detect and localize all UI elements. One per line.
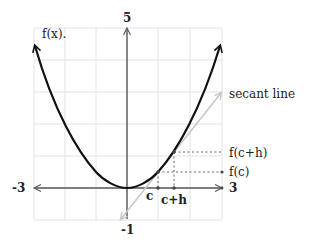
- grid: [34, 28, 222, 220]
- secant-line: [121, 195, 140, 219]
- function-label: f(x).: [42, 27, 66, 41]
- fc-end-dot: [220, 170, 223, 173]
- point-fc: [156, 170, 160, 174]
- point-ch: [172, 186, 176, 190]
- point-fch: [172, 150, 176, 154]
- c-label: c: [146, 189, 153, 203]
- ch-label: c+h: [161, 193, 187, 207]
- y-min-label: -1: [121, 223, 134, 237]
- function-curve-left: [35, 46, 127, 188]
- x-min-label: -3: [12, 181, 25, 195]
- point-c: [156, 186, 160, 190]
- secant-line-diagram: f(x). secant line f(c+h) f(c) 3 -3 5 -1 …: [0, 0, 311, 247]
- fch-label: f(c+h): [229, 146, 267, 160]
- x-max-label: 3: [229, 181, 237, 195]
- secant-line-upper: [140, 93, 221, 195]
- y-max-label: 5: [123, 11, 131, 25]
- fc-label: f(c): [229, 165, 250, 179]
- xaxis-end-dot: [221, 187, 224, 190]
- secant-label: secant line: [229, 87, 295, 101]
